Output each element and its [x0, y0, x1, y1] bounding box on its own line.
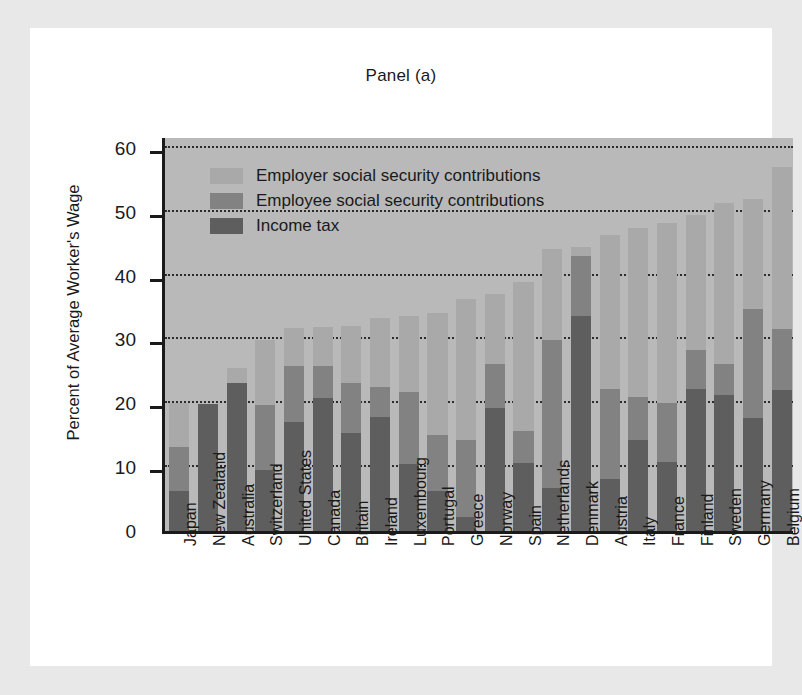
bar-segment-employee-ssc — [513, 431, 533, 463]
x-label-germany: Germany — [756, 480, 774, 546]
bar-segment-employer-ssc — [370, 318, 390, 386]
bar-segment-employee-ssc — [427, 435, 447, 491]
bar-segment-employer-ssc — [485, 294, 505, 364]
legend-label-employee: Employee social security contributions — [256, 191, 544, 211]
x-label-italy: Italy — [641, 517, 659, 546]
y-tick-label-30: 30 — [90, 329, 136, 351]
bar-segment-employer-ssc — [313, 327, 333, 367]
plot-inner: Employer social security contributionsEm… — [165, 138, 793, 531]
bar-segment-employer-ssc — [571, 247, 591, 257]
legend-label-employer: Employer social security contributions — [256, 166, 540, 186]
bar-segment-employee-ssc — [686, 350, 706, 388]
y-tick-label-50: 50 — [90, 202, 136, 224]
x-label-britain: Britain — [354, 501, 372, 546]
x-label-finland: Finland — [699, 494, 717, 546]
bar-segment-employee-ssc — [657, 403, 677, 462]
bar-segment-employee-ssc — [399, 392, 419, 464]
chart-legend: Employer social security contributionsEm… — [210, 163, 544, 238]
bar-segment-employer-ssc — [772, 167, 792, 329]
bar-segment-employee-ssc — [600, 389, 620, 478]
bar-italy — [628, 228, 648, 531]
bar-segment-employer-ssc — [657, 223, 677, 403]
bar-sweden — [714, 203, 734, 531]
x-label-netherlands: Netherlands — [555, 460, 573, 546]
bar-segment-employer-ssc — [399, 316, 419, 391]
x-label-ireland: Ireland — [383, 497, 401, 546]
y-tick-label-60: 60 — [90, 138, 136, 160]
y-tick-10 — [150, 470, 162, 473]
x-label-switzerland: Switzerland — [268, 463, 286, 546]
x-label-canada: Canada — [326, 490, 344, 546]
legend-label-income_tax: Income tax — [256, 216, 339, 236]
legend-item-employer: Employer social security contributions — [210, 163, 544, 188]
bar-spain — [513, 282, 533, 531]
bar-france — [657, 223, 677, 531]
bar-segment-employer-ssc — [686, 215, 706, 350]
bar-segment-employee-ssc — [714, 364, 734, 395]
bar-segment-employee-ssc — [169, 447, 189, 491]
bar-segment-employer-ssc — [427, 313, 447, 435]
bar-segment-employer-ssc — [341, 326, 361, 383]
bar-segment-employee-ssc — [772, 329, 792, 390]
bar-segment-employer-ssc — [513, 282, 533, 431]
y-tick-label-0: 0 — [90, 521, 136, 543]
x-label-sweden: Sweden — [727, 488, 745, 546]
bar-segment-employee-ssc — [341, 383, 361, 433]
bar-segment-employee-ssc — [255, 405, 275, 470]
legend-swatch-income_tax — [210, 218, 243, 234]
x-label-new-zealand: New Zealand — [211, 452, 229, 546]
y-tick-50 — [150, 215, 162, 218]
bar-segment-employee-ssc — [571, 256, 591, 316]
bar-segment-employee-ssc — [370, 387, 390, 418]
bar-segment-employee-ssc — [284, 366, 304, 422]
x-label-greece: Greece — [469, 494, 487, 546]
bar-segment-employee-ssc — [628, 397, 648, 440]
y-tick-20 — [150, 406, 162, 409]
bar-segment-employer-ssc — [743, 199, 763, 309]
legend-item-employee: Employee social security contributions — [210, 188, 544, 213]
bar-finland — [686, 215, 706, 531]
y-tick-30 — [150, 342, 162, 345]
bar-segment-employee-ssc — [743, 309, 763, 418]
plot-area: Employer social security contributionsEm… — [162, 138, 793, 534]
x-label-australia: Australia — [240, 484, 258, 546]
y-tick-60 — [150, 151, 162, 154]
bar-segment-employer-ssc — [255, 340, 275, 405]
x-label-japan: Japan — [182, 502, 200, 546]
bar-belgium — [772, 167, 792, 531]
x-label-portugal: Portugal — [440, 486, 458, 546]
figure-card: Panel (a) Percent of Average Worker's Wa… — [30, 28, 772, 666]
y-tick-label-10: 10 — [90, 457, 136, 479]
legend-item-income_tax: Income tax — [210, 213, 544, 238]
y-tick-label-40: 40 — [90, 266, 136, 288]
bar-segment-employee-ssc — [313, 366, 333, 398]
bar-segment-employer-ssc — [284, 328, 304, 366]
x-label-belgium: Belgium — [785, 488, 802, 546]
bar-segment-employer-ssc — [456, 299, 476, 440]
y-axis-label: Percent of Average Worker's Wage — [64, 113, 83, 513]
bar-austria — [600, 235, 620, 531]
bar-segment-employee-ssc — [485, 364, 505, 408]
chart-title: Panel (a) — [30, 66, 772, 86]
y-tick-40 — [150, 279, 162, 282]
x-label-norway: Norway — [498, 492, 516, 546]
x-label-france: France — [670, 496, 688, 546]
x-label-luxembourg: Luxembourg — [412, 457, 430, 546]
figure-page: Panel (a) Percent of Average Worker's Wa… — [0, 0, 802, 695]
x-label-spain: Spain — [527, 505, 545, 546]
x-label-austria: Austria — [613, 496, 631, 546]
legend-swatch-employee — [210, 193, 243, 209]
bar-segment-employer-ssc — [169, 403, 189, 446]
bar-segment-employer-ssc — [600, 235, 620, 389]
legend-swatch-employer — [210, 168, 243, 184]
bar-segment-employer-ssc — [714, 203, 734, 363]
bar-segment-employer-ssc — [227, 368, 247, 383]
bar-segment-employer-ssc — [628, 228, 648, 397]
bar-segment-employer-ssc — [542, 249, 562, 340]
gridline-60 — [165, 146, 793, 148]
x-label-united-states: United States — [297, 450, 315, 546]
y-tick-label-20: 20 — [90, 393, 136, 415]
x-label-denmark: Denmark — [584, 481, 602, 546]
